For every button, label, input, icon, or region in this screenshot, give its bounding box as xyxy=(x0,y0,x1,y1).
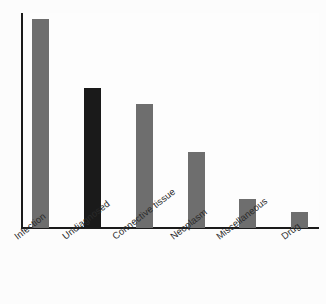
bar-infection[interactable] xyxy=(32,19,49,228)
x-axis-tick-labels: Infection Undiagnosed Connective tissue … xyxy=(0,229,326,304)
bar-chart-figure: Infection Undiagnosed Connective tissue … xyxy=(0,0,326,304)
